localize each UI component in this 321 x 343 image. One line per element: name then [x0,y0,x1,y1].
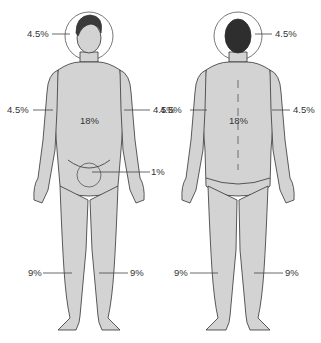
front-left-arm [120,70,144,203]
back-figure [182,12,294,330]
back-head-label: 4.5% [275,29,297,39]
front-right-arm [34,70,58,203]
back-left-arm-label: 4.5% [160,105,182,115]
back-trunk-label: 18% [229,116,248,126]
front-right-leg [58,186,88,330]
front-right-leg-label: 9% [28,268,42,278]
front-genital-label: 1% [151,167,165,177]
front-right-arm-label: 4.5% [7,105,29,115]
back-hair [225,19,251,53]
back-left-leg-label: 9% [174,268,188,278]
back-right-leg-label: 9% [285,268,299,278]
back-right-arm-label: 4.5% [293,105,315,115]
front-left-leg-label: 9% [130,268,144,278]
front-trunk-label: 18% [80,116,99,126]
front-head-label: 4.5% [27,29,49,39]
front-figure [34,12,144,330]
front-left-leg [90,186,120,330]
